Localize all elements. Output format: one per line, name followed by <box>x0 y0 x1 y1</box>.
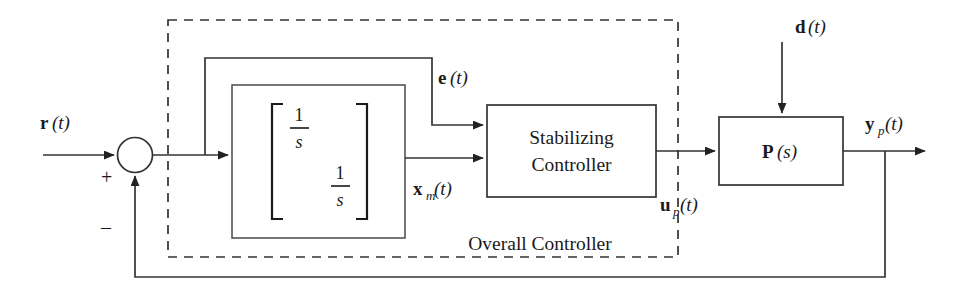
integrator-denominator-2: s <box>336 190 343 210</box>
plant-symbol: P <box>762 141 774 162</box>
plant-input-subscript: p <box>672 204 680 219</box>
plant-output-label: y p (t) <box>865 113 903 138</box>
overall-controller-label: Overall Controller <box>468 233 612 254</box>
plant-label: P (s) <box>762 141 797 163</box>
disturbance-symbol: d <box>795 16 806 37</box>
error-argument: (t) <box>450 67 468 89</box>
plant-output-subscript: p <box>877 123 885 138</box>
plant-input-argument: (t) <box>680 194 698 216</box>
integrator-denominator-1: s <box>295 132 302 152</box>
plant-argument: (s) <box>777 141 797 163</box>
plant-input-symbol: u <box>660 194 671 215</box>
plant-input-label: u p (t) <box>660 194 698 219</box>
stabilizing-controller-label-line1: Stabilizing <box>529 127 614 148</box>
control-block-diagram: 1 s 1 s Stabilizing Controller P (s) r (… <box>0 0 967 294</box>
summing-plus-sign: + <box>101 166 112 188</box>
integrator-numerator-1: 1 <box>295 105 304 125</box>
error-label: e (t) <box>438 67 468 89</box>
disturbance-argument: (t) <box>808 16 826 38</box>
model-state-symbol: x <box>413 178 423 199</box>
integrator-bank-block <box>232 85 405 238</box>
reference-argument: (t) <box>52 112 70 134</box>
plant-output-argument: (t) <box>885 113 903 135</box>
model-state-label: x m (t) <box>413 178 452 203</box>
reference-label: r (t) <box>40 112 70 134</box>
integrator-numerator-2: 1 <box>336 163 345 183</box>
disturbance-label: d (t) <box>795 16 826 38</box>
stabilizing-controller-label-line2: Controller <box>531 154 612 175</box>
error-symbol: e <box>438 67 446 88</box>
summing-minus-sign: – <box>100 216 112 238</box>
stabilizing-controller-block <box>487 105 656 197</box>
summing-junction <box>118 138 153 173</box>
plant-output-symbol: y <box>865 113 875 134</box>
model-state-argument: (t) <box>434 178 452 200</box>
reference-symbol: r <box>40 112 49 133</box>
